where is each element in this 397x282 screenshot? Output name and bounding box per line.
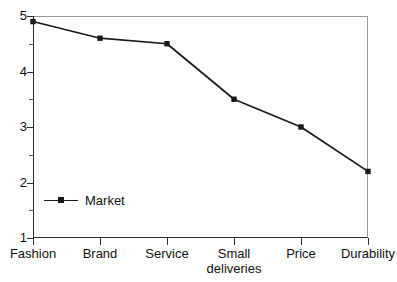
- x-tick: [33, 238, 34, 245]
- y-major-tick: [27, 127, 34, 128]
- line-chart: 54321 FashionBrandServiceSmall deliverie…: [0, 0, 397, 282]
- y-tick-label: 1: [3, 231, 27, 244]
- x-tick: [234, 238, 235, 245]
- y-minor-tick: [29, 44, 34, 45]
- y-tick-label: 5: [3, 9, 27, 22]
- x-tick: [100, 238, 101, 245]
- y-tick-label: 3: [3, 120, 27, 133]
- x-tick: [167, 238, 168, 245]
- legend-label-market: Market: [85, 194, 125, 207]
- y-minor-tick: [29, 210, 34, 211]
- y-minor-tick: [29, 99, 34, 100]
- legend-symbol-market: [44, 196, 78, 205]
- y-tick-label: 2: [3, 176, 27, 189]
- y-minor-tick: [29, 155, 34, 156]
- legend: Market: [44, 194, 125, 207]
- y-major-tick: [27, 16, 34, 17]
- x-tick-label: Durability: [320, 246, 397, 261]
- y-major-tick: [27, 238, 34, 239]
- y-tick-label: 4: [3, 65, 27, 78]
- x-tick: [368, 238, 369, 245]
- legend-square-marker-icon: [58, 197, 64, 203]
- y-major-tick: [27, 183, 34, 184]
- y-axis: 54321: [0, 0, 27, 282]
- y-major-tick: [27, 72, 34, 73]
- x-tick: [301, 238, 302, 245]
